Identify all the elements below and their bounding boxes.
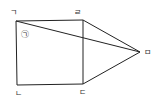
segment-giyeok-mieum bbox=[16, 21, 140, 52]
segment-giyeok-nieun bbox=[16, 21, 17, 85]
label-point-rieul: ㄹ bbox=[74, 8, 81, 17]
geometry-diagram: ㄱ ㄴ ㄷ ㄹ ㅁ ㉠ bbox=[0, 0, 164, 106]
angle-mark-label: ㉠ bbox=[21, 30, 29, 39]
segment-giyeok-rieul bbox=[16, 20, 83, 21]
label-point-mieum: ㅁ bbox=[144, 48, 151, 57]
segment-nieun-digeut bbox=[17, 84, 83, 85]
label-point-digeut: ㄷ bbox=[79, 88, 86, 97]
segment-digeut-mieum bbox=[83, 52, 140, 84]
label-point-giyeok: ㄱ bbox=[10, 8, 17, 17]
segment-rieul-mieum bbox=[83, 20, 140, 52]
label-point-nieun: ㄴ bbox=[15, 89, 22, 98]
